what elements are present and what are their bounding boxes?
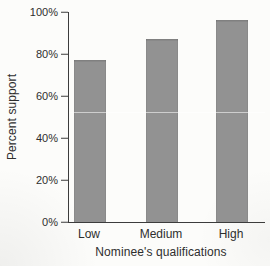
x-axis-title: Nominee's qualifications	[95, 245, 226, 259]
y-tick-label: 0%	[42, 217, 58, 228]
bar-low	[74, 60, 106, 222]
y-tick-mark	[61, 179, 68, 181]
y-tick-label: 100%	[30, 7, 58, 18]
y-tick-mark	[61, 53, 68, 55]
y-tick-label: 60%	[36, 91, 58, 102]
x-category-label-medium: Medium	[140, 227, 183, 241]
x-axis-category-labels: LowMediumHigh	[68, 227, 264, 241]
bar-high	[216, 20, 248, 222]
bar-chart-figure: Percent support 0%20%40%60%80%100% LowMe…	[0, 0, 270, 266]
x-category-label-high: High	[219, 227, 244, 241]
bar-medium	[146, 39, 178, 222]
y-axis-title: Percent support	[5, 74, 19, 160]
y-tick-mark	[61, 95, 68, 97]
y-tick-mark	[61, 221, 68, 223]
y-tick-mark	[61, 137, 68, 139]
x-category-label-low: Low	[78, 227, 100, 241]
y-tick-label: 80%	[36, 49, 58, 60]
y-tick-label: 40%	[36, 133, 58, 144]
y-tick-mark	[61, 11, 68, 13]
y-tick-label: 20%	[36, 175, 58, 186]
plot-area: 0%20%40%60%80%100%	[68, 12, 265, 223]
